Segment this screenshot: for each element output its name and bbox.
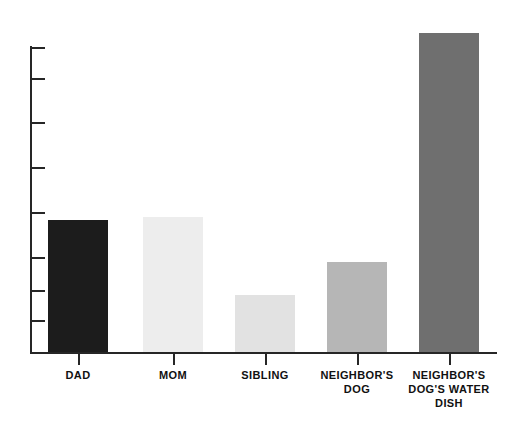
x-tick-2 (265, 354, 267, 365)
x-tick-0 (78, 354, 80, 365)
y-tick-4 (32, 212, 45, 214)
bar-sibling (235, 295, 295, 352)
x-tick-1 (173, 354, 175, 365)
bar-dad (48, 220, 108, 352)
x-label-sibling: SIBLING (213, 368, 317, 382)
bar-mom (143, 217, 203, 352)
x-tick-3 (357, 354, 359, 365)
y-axis-line (30, 46, 32, 354)
y-tick-1 (32, 78, 45, 80)
x-tick-4 (449, 354, 451, 365)
x-label-dad: DAD (26, 368, 130, 382)
x-label-mom: MOM (121, 368, 225, 382)
x-label-neighbors-dogs-water-dish: NEIGHBOR'S DOG'S WATER DISH (397, 368, 501, 410)
bar-neighbors-dogs-water-dish (419, 33, 479, 352)
y-tick-3 (32, 167, 45, 169)
bar-chart: DAD MOM SIBLING NEIGHBOR'S DOG NEIGHBOR'… (0, 0, 512, 436)
y-tick-0 (32, 47, 45, 49)
y-tick-5 (32, 257, 45, 259)
y-tick-7 (32, 320, 45, 322)
bar-neighbors-dog (327, 262, 387, 352)
x-axis-line (30, 352, 497, 354)
x-label-neighbors-dog: NEIGHBOR'S DOG (305, 368, 409, 396)
y-tick-6 (32, 290, 45, 292)
y-tick-2 (32, 122, 45, 124)
